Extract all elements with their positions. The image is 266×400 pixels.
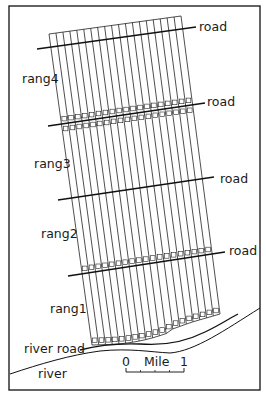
farmhouse-square: [111, 119, 116, 124]
scale-zero: 0: [122, 354, 130, 369]
scale-one: 1: [180, 354, 188, 369]
range-label-3: rang3: [34, 156, 71, 171]
strip-boundary: [84, 29, 126, 343]
farmhouse-square: [110, 109, 115, 114]
farmhouse-square: [173, 321, 178, 326]
farmhouse-square: [157, 255, 162, 260]
range-label-1: rang1: [50, 301, 87, 316]
farmhouse-square: [207, 310, 212, 315]
farmhouse-square: [144, 257, 149, 262]
farmhouse-square: [179, 99, 184, 104]
farmhouse-square: [116, 261, 121, 266]
strip-lot-map: rang4 rang3 rang2 rang1 road road road r…: [0, 0, 266, 400]
farmhouse-square: [103, 110, 108, 115]
farmhouse-square: [188, 108, 193, 113]
farmhouse-square: [103, 263, 108, 268]
farmhouse-square: [92, 338, 97, 343]
farmhouse-square: [178, 251, 183, 256]
farmhouse-square: [187, 316, 192, 321]
farmhouse-square: [186, 98, 191, 103]
strip-boundary: [77, 30, 119, 344]
farmhouse-square: [62, 116, 67, 121]
farmhouse-square: [167, 111, 172, 116]
farmhouse-square: [119, 337, 124, 342]
farmhouse-square: [145, 104, 150, 109]
road-label-1: road: [199, 19, 227, 34]
farmhouse-square: [164, 254, 169, 259]
farmhouse-square: [133, 335, 138, 340]
farmhouse-square: [146, 332, 151, 337]
farmhouse-square: [106, 338, 111, 343]
scale-bar: 0 Mile 1: [122, 354, 188, 372]
range-label-4: rang4: [22, 71, 59, 86]
farmhouse-square: [96, 111, 101, 116]
farmhouse-square: [214, 308, 219, 313]
farmhouse-square: [84, 123, 89, 128]
farmhouse-square: [124, 107, 129, 112]
strip-boundary: [91, 28, 133, 342]
farmhouse-square: [150, 256, 155, 261]
farmhouse-square: [131, 106, 136, 111]
road-label-3: road: [220, 171, 248, 186]
farmhouse-square: [69, 115, 74, 120]
farmhouse-square: [192, 249, 197, 254]
farmhouse-square: [152, 103, 157, 108]
road-label-4: road: [229, 243, 257, 258]
farmhouse-square: [126, 336, 131, 341]
farmhouse-square: [171, 253, 176, 258]
farmhouse-square: [160, 328, 165, 333]
river-road-label: river road: [24, 341, 85, 356]
strip-boundary: [56, 33, 99, 345]
farmhouse-square: [167, 324, 172, 329]
farmhouse-square: [160, 112, 165, 117]
farmhouse-square: [83, 113, 88, 118]
river-label: river: [38, 366, 68, 381]
farmhouse-square: [139, 115, 144, 120]
farmhouse-square: [118, 118, 123, 123]
farmhouse-square: [63, 126, 68, 131]
farmhouse-square: [125, 117, 130, 122]
farmhouse-square: [91, 122, 96, 127]
farmhouse-square: [113, 337, 118, 342]
farmhouse-square: [146, 114, 151, 119]
farmhouse-square: [132, 116, 137, 121]
farmhouse-square: [70, 125, 75, 130]
farmhouse-square: [199, 248, 204, 253]
farmhouse-square: [137, 258, 142, 263]
farmhouse-square: [200, 312, 205, 317]
farmhouse-square: [194, 314, 199, 319]
farmhouse-square: [109, 262, 114, 267]
farmhouse-square: [180, 318, 185, 323]
road-line-2: [48, 103, 205, 126]
strip-boundary: [63, 32, 106, 345]
farmhouse-square: [117, 108, 122, 113]
farmhouse-square: [153, 330, 158, 335]
farmhouse-square: [140, 333, 145, 338]
farmhouse-square: [96, 264, 101, 269]
farmhouse-square: [89, 112, 94, 117]
range-label-2: rang2: [41, 226, 78, 241]
farmhouse-square: [174, 110, 179, 115]
strip-boundary: [70, 31, 112, 344]
farmhouse-square: [123, 260, 128, 265]
farmhouse-square: [130, 259, 135, 264]
farmhouse-square: [166, 101, 171, 106]
farmhouse-square: [185, 250, 190, 255]
farmhouse-square: [83, 266, 88, 271]
farmhouse-square: [138, 105, 143, 110]
road-label-2: road: [207, 94, 235, 109]
road-line-1: [37, 27, 196, 49]
farmhouse-square: [98, 121, 103, 126]
strip-boundary: [98, 27, 140, 341]
scale-unit: Mile: [144, 354, 170, 369]
farmhouse-square: [181, 109, 186, 114]
farmhouse-square: [104, 120, 109, 125]
road-line-4: [68, 252, 225, 276]
farmhouse-square: [89, 265, 94, 270]
farmhouse-square: [206, 247, 211, 252]
farmhouse-square: [76, 114, 81, 119]
farmhouse-square: [172, 100, 177, 105]
farmhouse-square: [77, 124, 82, 129]
farmhouse-square: [159, 102, 164, 107]
farmhouse-square: [99, 338, 104, 343]
